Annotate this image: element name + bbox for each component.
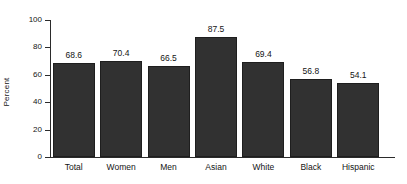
x-tick-label: Men — [148, 161, 190, 174]
bar: 87.5 — [195, 37, 237, 157]
y-axis-label: Percent — [0, 0, 14, 184]
bar-value-label: 54.1 — [350, 70, 367, 81]
y-tick-label: 0 — [38, 151, 42, 162]
bar-value-label: 56.8 — [303, 66, 320, 77]
x-tick-label: Hispanic — [337, 161, 379, 174]
bar-series: 68.670.466.587.569.456.854.1 — [50, 20, 395, 158]
bar: 56.8 — [290, 79, 332, 157]
x-axis-tick-labels: TotalWomenMenAsianWhiteBlackHispanic — [50, 161, 395, 177]
bar-value-label: 70.4 — [113, 48, 130, 59]
y-tick-label: 80 — [33, 41, 42, 52]
bar: 66.5 — [148, 66, 190, 157]
y-tick-label: 40 — [33, 96, 42, 107]
bar-value-label: 87.5 — [208, 24, 225, 35]
x-tick-label: White — [242, 161, 284, 174]
bar: 70.4 — [100, 61, 142, 157]
bar-value-label: 68.6 — [65, 50, 82, 61]
bar: 54.1 — [337, 83, 379, 157]
y-tick-label: 60 — [33, 69, 42, 80]
bar-chart: Percent 020406080100 68.670.466.587.569.… — [0, 0, 407, 184]
x-tick-label: Black — [290, 161, 332, 174]
bar-value-label: 69.4 — [255, 49, 272, 60]
bar: 68.6 — [53, 63, 95, 157]
bar-value-label: 66.5 — [160, 53, 177, 64]
plot-area: 020406080100 68.670.466.587.569.456.854.… — [50, 20, 395, 158]
bar: 69.4 — [242, 62, 284, 157]
x-tick-label: Women — [100, 161, 142, 174]
y-tick-label: 20 — [33, 124, 42, 135]
x-tick-label: Total — [53, 161, 95, 174]
x-tick-label: Asian — [195, 161, 237, 174]
y-tick-label: 100 — [29, 14, 42, 25]
